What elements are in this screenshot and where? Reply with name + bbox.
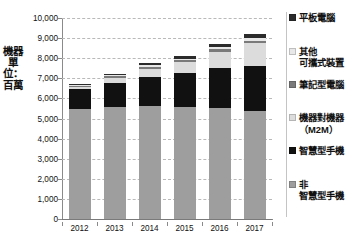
x-axis-tick-mark <box>202 222 203 226</box>
legend-swatch-icon <box>289 81 296 88</box>
y-axis-tick-label: 6,000 <box>18 94 58 103</box>
bar-segment <box>69 109 91 219</box>
x-axis-tick-mark <box>97 222 98 226</box>
bar-segment <box>209 108 231 219</box>
legend-item[interactable]: 機器對機器 （M2M） <box>289 112 358 135</box>
bar-segment <box>244 43 266 66</box>
gridline <box>62 159 272 160</box>
gridline <box>62 18 272 19</box>
y-axis-tick-label: 0 <box>18 215 58 224</box>
legend-item-label: 平板電腦 <box>299 12 335 24</box>
legend-item-label: 其他 可攜式裝置 <box>299 46 344 69</box>
gridline <box>62 179 272 180</box>
gridline <box>62 199 272 200</box>
x-axis-tick-mark <box>62 222 63 226</box>
legend-item[interactable]: 非 智慧型手機 <box>289 179 358 202</box>
x-axis-tick-label: 2014 <box>130 224 170 233</box>
x-axis-tick-label: 2017 <box>235 224 275 233</box>
bar-stack <box>244 34 266 219</box>
legend-item-label: 機器對機器 （M2M） <box>299 112 344 135</box>
legend-swatch-icon <box>289 147 296 154</box>
bar-segment <box>104 83 126 107</box>
x-axis-tick-label: 2015 <box>165 224 205 233</box>
bar-segment <box>69 89 91 109</box>
bar-segment <box>139 77 161 106</box>
gridline <box>62 98 272 99</box>
bar-segment <box>139 106 161 219</box>
y-axis-tick-label: 4,000 <box>18 134 58 143</box>
y-axis-tick-label: 10,000 <box>18 14 58 23</box>
y-axis-tick-label: 2,000 <box>18 174 58 183</box>
gridline <box>62 119 272 120</box>
bar-segment <box>244 66 266 112</box>
x-axis-tick-mark <box>272 222 273 226</box>
legend-swatch-icon <box>289 14 296 21</box>
x-axis-tick-label: 2013 <box>95 224 135 233</box>
bar-segment <box>209 68 231 108</box>
legend-swatch-icon <box>289 48 296 55</box>
bar-segment <box>104 107 126 219</box>
x-axis-tick-label: 2016 <box>200 224 240 233</box>
legend-item[interactable]: 筆記型電腦 <box>289 79 358 91</box>
y-axis-tick-label: 3,000 <box>18 154 58 163</box>
y-axis-tick-label: 5,000 <box>18 114 58 123</box>
bar-stack <box>139 63 161 219</box>
y-axis-tick-label: 7,000 <box>18 74 58 83</box>
x-axis-tick-labels: 201220132014201520162017 <box>62 222 273 238</box>
legend-item[interactable]: 智慧型手機 <box>289 145 358 157</box>
plot-area <box>62 18 272 219</box>
gridline <box>62 78 272 79</box>
bar-stack <box>104 74 126 219</box>
bar-stack <box>209 44 231 219</box>
bar-segment <box>139 69 161 77</box>
chart-legend: 平板電腦其他 可攜式裝置筆記型電腦機器對機器 （M2M）智慧型手機非 智慧型手機 <box>286 12 358 217</box>
gridline <box>62 139 272 140</box>
legend-item[interactable]: 其他 可攜式裝置 <box>289 46 358 69</box>
x-axis-tick-mark <box>167 222 168 226</box>
y-axis-tick-label: 8,000 <box>18 54 58 63</box>
bar-segment <box>209 52 231 69</box>
x-axis-tick-mark <box>237 222 238 226</box>
gridline <box>62 219 272 220</box>
gridline <box>62 38 272 39</box>
legend-item-label: 非 智慧型手機 <box>299 179 344 202</box>
bar-segment <box>174 107 196 219</box>
legend-swatch-icon <box>289 114 296 121</box>
gridline <box>62 58 272 59</box>
bar-segment <box>174 73 196 107</box>
y-axis-tick-label: 9,000 <box>18 34 58 43</box>
bar-stack <box>174 56 196 219</box>
x-axis-tick-label: 2012 <box>60 224 100 233</box>
legend-item-label: 智慧型手機 <box>299 145 344 157</box>
bar-stack <box>69 84 91 219</box>
legend-swatch-icon <box>289 181 296 188</box>
y-axis-tick-label: 1,000 <box>18 194 58 203</box>
bar-segment <box>244 111 266 219</box>
legend-item[interactable]: 平板電腦 <box>289 12 358 24</box>
bar-segment <box>174 62 196 72</box>
y-axis-tick-labels: 01,0002,0003,0004,0005,0006,0007,0008,00… <box>16 18 58 219</box>
x-axis-tick-mark <box>132 222 133 226</box>
legend-item-label: 筆記型電腦 <box>299 79 344 91</box>
stacked-bar-chart: 機器單位：百萬 01,0002,0003,0004,0005,0006,0007… <box>0 0 359 246</box>
